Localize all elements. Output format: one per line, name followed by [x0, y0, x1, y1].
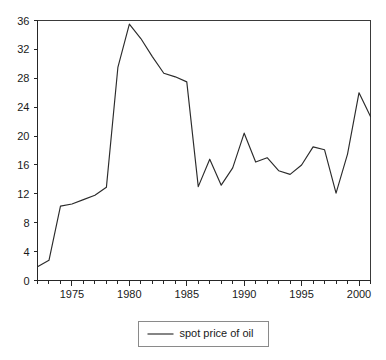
y-tick-label: 28 — [17, 72, 29, 84]
y-axis-tick-labels: 04812162024283236 — [17, 15, 29, 287]
y-axis-ticks — [34, 21, 38, 281]
x-tick-label: 1990 — [232, 288, 256, 300]
series-line-spot-price-of-oil — [38, 24, 371, 267]
legend-label: spot price of oil — [180, 327, 254, 339]
y-tick-label: 12 — [17, 188, 29, 200]
y-tick-label: 32 — [17, 43, 29, 55]
x-axis-tick-labels: 197519801985199019952000 — [60, 288, 372, 300]
y-tick-label: 0 — [23, 275, 29, 287]
y-tick-label: 16 — [17, 159, 29, 171]
x-tick-label: 1995 — [289, 288, 313, 300]
y-tick-label: 20 — [17, 130, 29, 142]
plot-border — [38, 21, 371, 281]
x-axis-ticks — [38, 281, 371, 286]
axis-lines — [38, 21, 371, 281]
data-series-group — [38, 24, 371, 267]
x-tick-label: 1985 — [175, 288, 199, 300]
plot-frame — [38, 21, 371, 281]
x-tick-label: 1975 — [60, 288, 84, 300]
y-tick-label: 4 — [23, 246, 29, 258]
y-tick-label: 24 — [17, 101, 29, 113]
chart-container: 04812162024283236 1975198019851990199520… — [0, 0, 386, 360]
line-chart: 04812162024283236 1975198019851990199520… — [0, 0, 386, 360]
y-tick-label: 8 — [23, 217, 29, 229]
chart-legend: spot price of oil — [139, 322, 269, 347]
x-tick-label: 2000 — [347, 288, 371, 300]
y-tick-label: 36 — [17, 15, 29, 27]
x-tick-label: 1980 — [117, 288, 141, 300]
